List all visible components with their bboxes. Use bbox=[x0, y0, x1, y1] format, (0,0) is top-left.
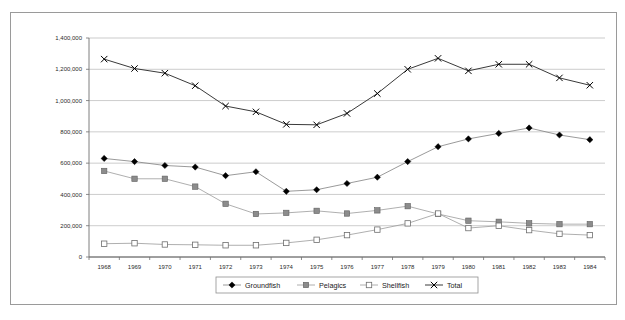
data-point-shellfish bbox=[466, 225, 471, 230]
y-tick-label: 800,000 bbox=[60, 129, 82, 135]
data-point-groundfish bbox=[496, 130, 502, 136]
data-point-pelagics bbox=[344, 211, 349, 216]
x-tick-label: 1974 bbox=[280, 264, 294, 270]
data-point-shellfish bbox=[526, 227, 531, 232]
x-tick-label: 1979 bbox=[431, 264, 445, 270]
data-point-groundfish bbox=[344, 180, 350, 186]
data-point-shellfish bbox=[435, 211, 440, 216]
data-point-shellfish bbox=[284, 240, 289, 245]
y-tick-label: 1,400,000 bbox=[55, 35, 82, 41]
data-point-shellfish bbox=[223, 243, 228, 248]
x-tick-label: 1978 bbox=[401, 264, 415, 270]
y-tick-label: 400,000 bbox=[60, 192, 82, 198]
y-tick-label: 600,000 bbox=[60, 160, 82, 166]
x-tick-label: 1975 bbox=[310, 264, 324, 270]
data-point-pelagics bbox=[466, 218, 471, 223]
data-point-groundfish bbox=[101, 155, 107, 161]
data-point-pelagics bbox=[223, 201, 228, 206]
data-point-pelagics bbox=[314, 208, 319, 213]
x-tick-label: 1982 bbox=[522, 264, 536, 270]
x-tick-label: 1970 bbox=[158, 264, 172, 270]
data-point-groundfish bbox=[435, 144, 441, 150]
data-point-groundfish bbox=[526, 125, 532, 131]
figure-frame: 0200,000400,000600,000800,0001,000,0001,… bbox=[10, 12, 617, 305]
data-point-groundfish bbox=[465, 136, 471, 142]
data-point-groundfish bbox=[374, 174, 380, 180]
data-point-shellfish bbox=[405, 221, 410, 226]
data-point-groundfish bbox=[192, 164, 198, 170]
data-point-pelagics bbox=[405, 203, 410, 208]
y-tick-label: 0 bbox=[79, 254, 83, 260]
data-point-shellfish bbox=[101, 241, 106, 246]
data-point-shellfish bbox=[587, 232, 592, 237]
y-tick-label: 200,000 bbox=[60, 223, 82, 229]
x-tick-label: 1968 bbox=[97, 264, 111, 270]
data-point-pelagics bbox=[587, 221, 592, 226]
legend-label-total: Total bbox=[447, 281, 463, 290]
data-point-pelagics bbox=[101, 168, 106, 173]
data-point-pelagics bbox=[162, 176, 167, 181]
x-tick-label: 1976 bbox=[340, 264, 354, 270]
data-point-shellfish bbox=[132, 241, 137, 246]
legend-marker-pelagics bbox=[303, 282, 308, 287]
chart-legend: GroundfishPelagicsShellfishTotal bbox=[216, 277, 478, 293]
data-point-shellfish bbox=[253, 243, 258, 248]
series-line-total bbox=[104, 58, 590, 124]
legend-label-groundfish: Groundfish bbox=[245, 281, 280, 290]
x-tick-label: 1984 bbox=[583, 264, 597, 270]
data-point-shellfish bbox=[344, 232, 349, 237]
x-tick-label: 1969 bbox=[128, 264, 142, 270]
data-point-pelagics bbox=[375, 208, 380, 213]
data-point-groundfish bbox=[405, 158, 411, 164]
legend-label-shellfish: Shellfish bbox=[382, 281, 409, 290]
data-point-groundfish bbox=[314, 187, 320, 193]
data-point-pelagics bbox=[132, 176, 137, 181]
data-point-shellfish bbox=[496, 223, 501, 228]
x-tick-label: 1972 bbox=[219, 264, 233, 270]
data-point-groundfish bbox=[556, 132, 562, 138]
y-tick-label: 1,000,000 bbox=[55, 98, 82, 104]
data-point-shellfish bbox=[375, 227, 380, 232]
data-point-groundfish bbox=[131, 158, 137, 164]
legend-marker-shellfish bbox=[366, 282, 371, 287]
data-point-groundfish bbox=[222, 173, 228, 179]
x-tick-label: 1971 bbox=[189, 264, 203, 270]
legend-label-pelagics: Pelagics bbox=[319, 281, 347, 290]
y-tick-label: 1,200,000 bbox=[55, 66, 82, 72]
data-point-pelagics bbox=[526, 221, 531, 226]
series-line-shellfish bbox=[104, 214, 590, 246]
data-point-shellfish bbox=[193, 242, 198, 247]
data-point-shellfish bbox=[314, 237, 319, 242]
figure-caption bbox=[12, 308, 612, 318]
x-tick-label: 1981 bbox=[492, 264, 506, 270]
x-tick-label: 1977 bbox=[371, 264, 385, 270]
x-tick-label: 1983 bbox=[553, 264, 567, 270]
x-axis-tick-labels: 1968196919701971197219731974197519761977… bbox=[97, 264, 597, 270]
x-tick-label: 1973 bbox=[249, 264, 263, 270]
data-point-groundfish bbox=[253, 169, 259, 175]
x-tick-label: 1980 bbox=[462, 264, 476, 270]
data-point-shellfish bbox=[162, 242, 167, 247]
data-point-pelagics bbox=[284, 210, 289, 215]
data-point-groundfish bbox=[587, 137, 593, 143]
data-point-pelagics bbox=[253, 211, 258, 216]
chart-plot-area: 0200,000400,000600,000800,0001,000,0001,… bbox=[11, 13, 618, 306]
data-point-groundfish bbox=[283, 188, 289, 194]
y-axis-tick-labels: 0200,000400,000600,000800,0001,000,0001,… bbox=[55, 35, 82, 260]
axes bbox=[86, 38, 605, 260]
data-point-shellfish bbox=[557, 231, 562, 236]
data-point-pelagics bbox=[193, 184, 198, 189]
series-markers bbox=[101, 55, 593, 248]
data-point-pelagics bbox=[557, 221, 562, 226]
series-lines bbox=[104, 58, 590, 245]
line-chart: 0200,000400,000600,000800,0001,000,0001,… bbox=[11, 13, 618, 306]
